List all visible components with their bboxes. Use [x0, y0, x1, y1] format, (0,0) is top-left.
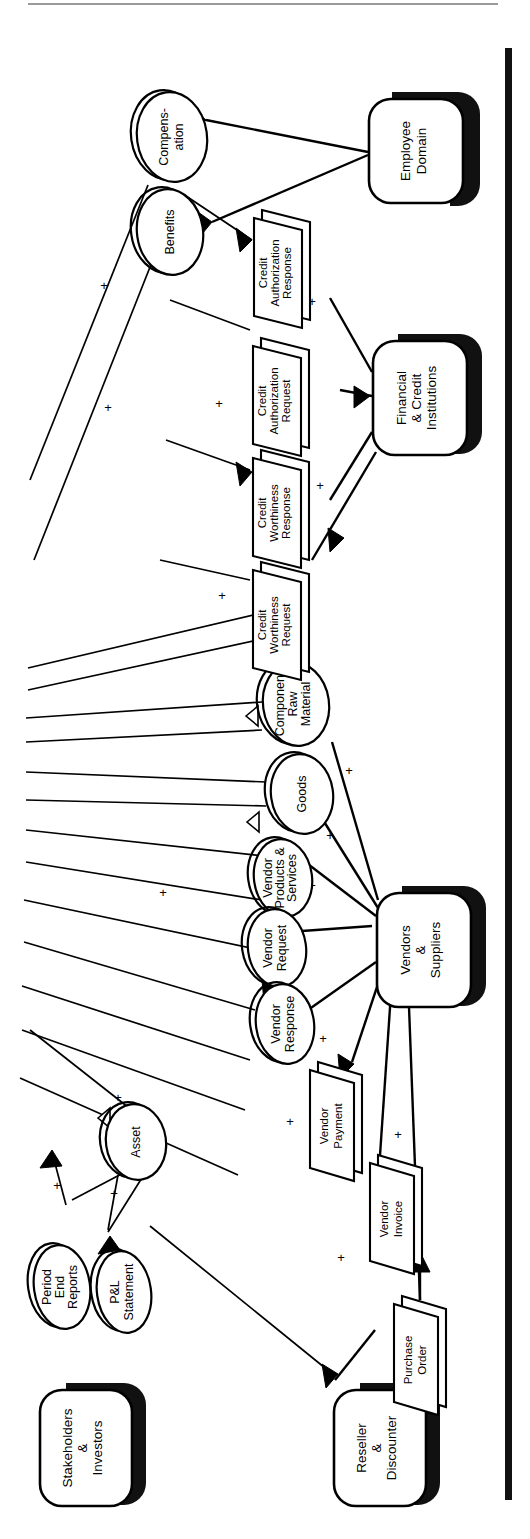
flow-label: Purchase	[402, 1336, 414, 1385]
entity-label: Suppliers	[428, 922, 443, 979]
marker-plus: +	[319, 1031, 327, 1046]
store-benefits[interactable]: Benefits	[125, 183, 208, 279]
entity-label: Discounter	[384, 1415, 399, 1480]
page-gutter-bar	[505, 48, 512, 1500]
marker-plus: +	[286, 1114, 294, 1129]
entity-employee-domain[interactable]: Employee Domain	[369, 92, 480, 206]
store-label: Goods	[295, 776, 309, 813]
page-edge-line	[28, 3, 498, 5]
connector-lines	[20, 120, 420, 1380]
marker-plus: +	[53, 1178, 61, 1193]
marker-plus: +	[100, 278, 108, 293]
store-label: Reports	[66, 1265, 80, 1309]
store-label: Period	[40, 1269, 54, 1305]
flow-label: Worthiness	[268, 484, 280, 542]
store-label: Request	[275, 924, 289, 971]
store-vendor-products-services[interactable]: Vendor Products & Services	[243, 833, 317, 920]
marker-plus: +	[326, 828, 334, 843]
flow-label: Response	[280, 487, 292, 539]
entity-label: Investors	[90, 1420, 105, 1475]
flow-label: Vendor	[318, 1108, 330, 1145]
flow-label: Vendor	[378, 1201, 390, 1238]
marker-plus: +	[218, 588, 226, 603]
flow-label: Credit	[256, 609, 268, 640]
store-label: End	[53, 1276, 67, 1298]
flow-label: Order	[416, 1345, 428, 1375]
marker-plus: +	[110, 1186, 118, 1201]
flow-vendor-invoice[interactable]: Vendor Invoice	[370, 1155, 422, 1274]
store-label: Benefits	[163, 209, 177, 254]
store-label: Vendor	[261, 928, 275, 968]
flow-credit-worthiness-response[interactable]: Credit Worthiness Response	[253, 450, 309, 568]
store-label: Material	[299, 682, 313, 726]
store-pl-statement[interactable]: P&L Statement	[86, 1246, 157, 1337]
store-label: Raw	[286, 691, 300, 717]
diagram-canvas: + + + + + + + + + + + + + + + + + * Empl…	[0, 0, 530, 1539]
flow-purchase-order[interactable]: Purchase Order	[394, 1296, 446, 1415]
flow-label: Request	[280, 379, 292, 423]
store-vendor-request[interactable]: Vendor Request	[237, 903, 311, 990]
entity-label: Reseller	[354, 1423, 369, 1473]
store-period-end-reports[interactable]: Period End Reports	[22, 1240, 95, 1333]
store-label: Asset	[129, 1126, 143, 1158]
marker-plus: +	[345, 763, 353, 778]
flow-vendor-payment[interactable]: Vendor Payment	[310, 1062, 362, 1181]
entity-label: Domain	[414, 128, 429, 175]
entity-label: Institutions	[424, 365, 439, 430]
diagram-svg: + + + + + + + + + + + + + + + + + * Empl…	[0, 0, 530, 1539]
entity-vendors-suppliers[interactable]: Vendors & Suppliers	[377, 886, 486, 1007]
flow-credit-authorization-request[interactable]: Credit Authorization Request	[253, 338, 309, 456]
store-label: Statement	[122, 1263, 136, 1321]
store-label: ation	[172, 123, 186, 150]
store-vendor-response[interactable]: Vendor Response	[245, 978, 320, 1067]
flow-label: Payment	[332, 1103, 344, 1149]
store-label: Component	[273, 671, 287, 736]
store-label: Vendor	[269, 1004, 283, 1044]
marker-plus: +	[394, 1127, 402, 1142]
entity-label: Stakeholders	[60, 1408, 75, 1487]
store-label: Services	[285, 854, 299, 902]
entity-label: Financial	[394, 371, 409, 425]
flow-label: Request	[280, 603, 292, 647]
store-label: P&L	[108, 1280, 122, 1304]
entity-label: Employee	[398, 121, 413, 181]
marker-plus: +	[316, 478, 324, 493]
flow-label: Response	[281, 247, 293, 299]
marker-plus: +	[215, 396, 223, 411]
flow-label: Invoice	[392, 1201, 404, 1237]
entity-label: Vendors	[398, 925, 413, 975]
marker-plus: +	[159, 885, 167, 900]
entity-stakeholders-investors[interactable]: Stakeholders & Investors	[40, 1383, 146, 1506]
store-label: Compens-	[157, 108, 171, 166]
flow-label: Authorization	[268, 367, 280, 434]
entity-financial-credit-institutions[interactable]: Financial & Credit Institutions	[373, 334, 482, 455]
flow-credit-worthiness-request[interactable]: Credit Worthiness Request	[253, 562, 309, 680]
entity-label: &	[75, 1443, 90, 1452]
store-label: Response	[283, 996, 297, 1052]
store-compensation[interactable]: Compens- ation	[125, 86, 213, 187]
entity-label: & Credit	[409, 373, 424, 422]
entity-label: &	[413, 945, 428, 954]
marker-plus: +	[104, 400, 112, 415]
flow-credit-authorization-response[interactable]: Credit Authorization Response	[254, 210, 310, 328]
flow-label: Credit	[256, 385, 268, 416]
flow-label: Credit	[257, 257, 269, 288]
entity-label: &	[369, 1443, 384, 1452]
flow-label: Worthiness	[268, 596, 280, 654]
flow-label: Credit	[256, 497, 268, 528]
marker-plus: +	[337, 1250, 345, 1265]
flow-label: Authorization	[269, 239, 281, 306]
